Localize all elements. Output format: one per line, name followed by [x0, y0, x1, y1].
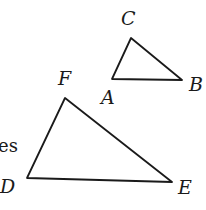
vertex-label-f: F — [57, 67, 72, 89]
triangle-abc — [112, 38, 182, 80]
vertex-label-e: E — [177, 176, 192, 198]
vertex-label-b: B — [188, 73, 203, 95]
vertex-label-a: A — [99, 86, 115, 108]
vertex-label-d: D — [0, 175, 15, 197]
cropped-text-fragment: es — [0, 135, 18, 156]
triangle-def — [27, 98, 172, 182]
similar-triangles-diagram: C B A F D E es — [0, 0, 206, 210]
vertex-label-c: C — [121, 7, 136, 29]
